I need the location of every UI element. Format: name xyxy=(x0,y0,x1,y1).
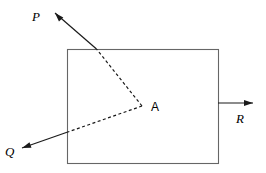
point-label-a: A xyxy=(151,100,159,114)
vector-p-arrowhead-icon xyxy=(55,13,63,22)
diagram-canvas-svg: PQR A xyxy=(0,0,266,173)
vector-r-arrowhead-icon xyxy=(244,100,253,106)
vector-q-arrowhead-icon xyxy=(22,142,31,148)
rigid-body-rectangle xyxy=(68,50,219,164)
vector-q-dashed-segment xyxy=(67,106,142,132)
vector-label-p: P xyxy=(31,9,40,24)
vector-diagram-figure: PQR A xyxy=(0,0,266,173)
vector-label-r: R xyxy=(235,111,244,126)
vector-label-q: Q xyxy=(5,144,15,159)
vector-p-dashed-segment xyxy=(97,49,143,106)
